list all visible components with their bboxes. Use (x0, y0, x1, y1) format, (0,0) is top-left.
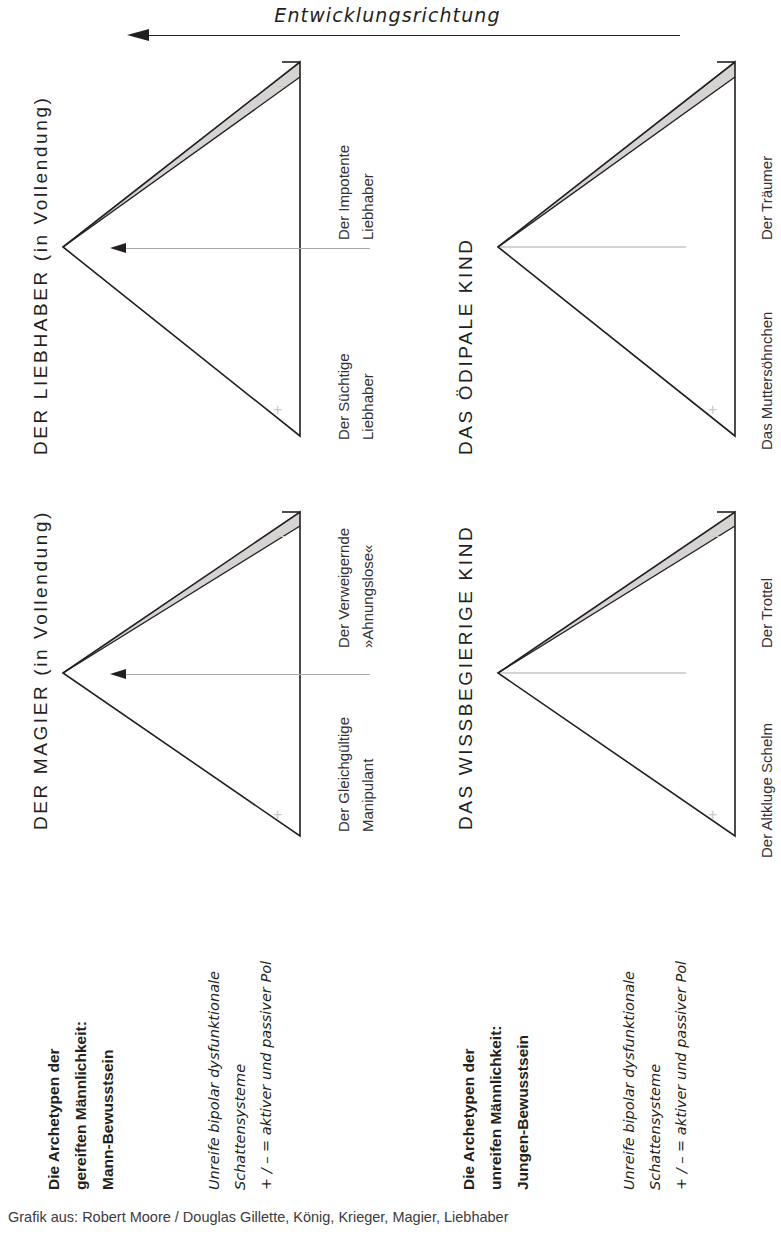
inner-arrow-head-icon (110, 243, 126, 253)
legend-mature-note-1: Unreife bipolar dysfunktionale (206, 971, 222, 1190)
legend-mature-heading-2: gereiften Männlichkeit: (72, 1021, 90, 1190)
pole-label-der-magier-minus-2: »Ahnungslose« (359, 545, 376, 648)
polarity-plus-icon: + (708, 401, 717, 418)
polarity-plus-icon: + (273, 806, 282, 823)
inner-arrow-der-liebhaber (110, 244, 370, 254)
triangle-der-liebhaber: – + (55, 55, 310, 445)
diagram-page: Entwicklungsrichtung – + DER LIEBHABER (… (0, 0, 781, 1243)
polarity-minus-icon: – (712, 77, 720, 93)
section-title-das-oedipale-kind: DAS ÖDIPALE KIND (455, 237, 477, 455)
polarity-minus-icon: – (712, 527, 720, 543)
pole-label-der-liebhaber-minus-1: Der Impotente (335, 145, 352, 240)
legend-immature-note-2: Schattensysteme (647, 1064, 663, 1190)
inner-arrow-der-magier (110, 670, 370, 680)
polarity-minus-icon: – (277, 527, 285, 543)
section-title-der-liebhaber: DER LIEBHABER (in Vollendung) (30, 96, 52, 455)
source-credit: Grafik aus: Robert Moore / Douglas Gille… (8, 1209, 509, 1225)
pole-label-das-wissbegierige-kind-plus-1: Der Altkluge Schelm (758, 723, 775, 858)
arrow-shaft (135, 35, 680, 36)
pole-label-der-magier-plus-2: Manipulant (359, 759, 376, 832)
pole-label-der-liebhaber-plus-1: Der Süchtige (335, 353, 352, 440)
pole-label-der-magier-minus-1: Der Verweigernde (335, 528, 352, 648)
triangle-shape-das-oedipale-kind: – + (490, 55, 745, 445)
section-title-der-magier: DER MAGIER (in Vollendung) (30, 510, 52, 830)
inner-arrow-head-icon (110, 669, 126, 679)
development-direction-arrow: Entwicklungsrichtung (95, 0, 680, 55)
arrow-left-icon (127, 29, 149, 41)
legend-immature-heading-3: Jungen-Bewusstsein (514, 1035, 532, 1190)
legend-immature-heading-1: Die Archetypen der (460, 1048, 478, 1190)
pole-label-der-liebhaber-minus-2: Liebhaber (359, 173, 376, 240)
legend-immature-heading-2: unreifen Männlichkeit: (487, 1026, 505, 1191)
polarity-plus-icon: + (273, 401, 282, 418)
triangle-shape-das-wissbegierige-kind: – + (490, 480, 745, 840)
triangle-der-magier: – + (55, 480, 310, 840)
section-title-das-wissbegierige-kind: DAS WISSBEGIERIGE KIND (455, 525, 477, 830)
pole-label-das-oedipale-kind-plus-1: Das Muttersöhnchen (758, 312, 775, 450)
legend-immature-note-1: Unreife bipolar dysfunktionale (621, 971, 637, 1190)
triangle-shape-der-magier: – + (55, 480, 310, 840)
polarity-minus-icon: – (277, 77, 285, 93)
triangle-das-wissbegierige-kind: – + (490, 480, 745, 840)
polarity-plus-icon: + (708, 806, 717, 823)
development-direction-label: Entwicklungsrichtung (95, 4, 680, 26)
pole-label-das-oedipale-kind-minus-1: Der Träumer (758, 156, 775, 240)
legend-immature-note-3: + / – = aktiver und passiver Pol (673, 961, 689, 1190)
legend-mature-heading-1: Die Archetypen der (45, 1048, 63, 1190)
legend-mature-note-2: Schattensysteme (232, 1064, 248, 1190)
pole-label-der-liebhaber-plus-2: Liebhaber (359, 373, 376, 440)
pole-label-der-magier-plus-1: Der Gleichgültige (335, 717, 352, 832)
legend-mature-heading-3: Mann-Bewusstsein (99, 1050, 117, 1190)
legend-mature-note-3: + / – = aktiver und passiver Pol (258, 961, 274, 1190)
triangle-das-oedipale-kind: – + (490, 55, 745, 445)
pole-label-das-wissbegierige-kind-minus-1: Der Trottel (758, 578, 775, 648)
